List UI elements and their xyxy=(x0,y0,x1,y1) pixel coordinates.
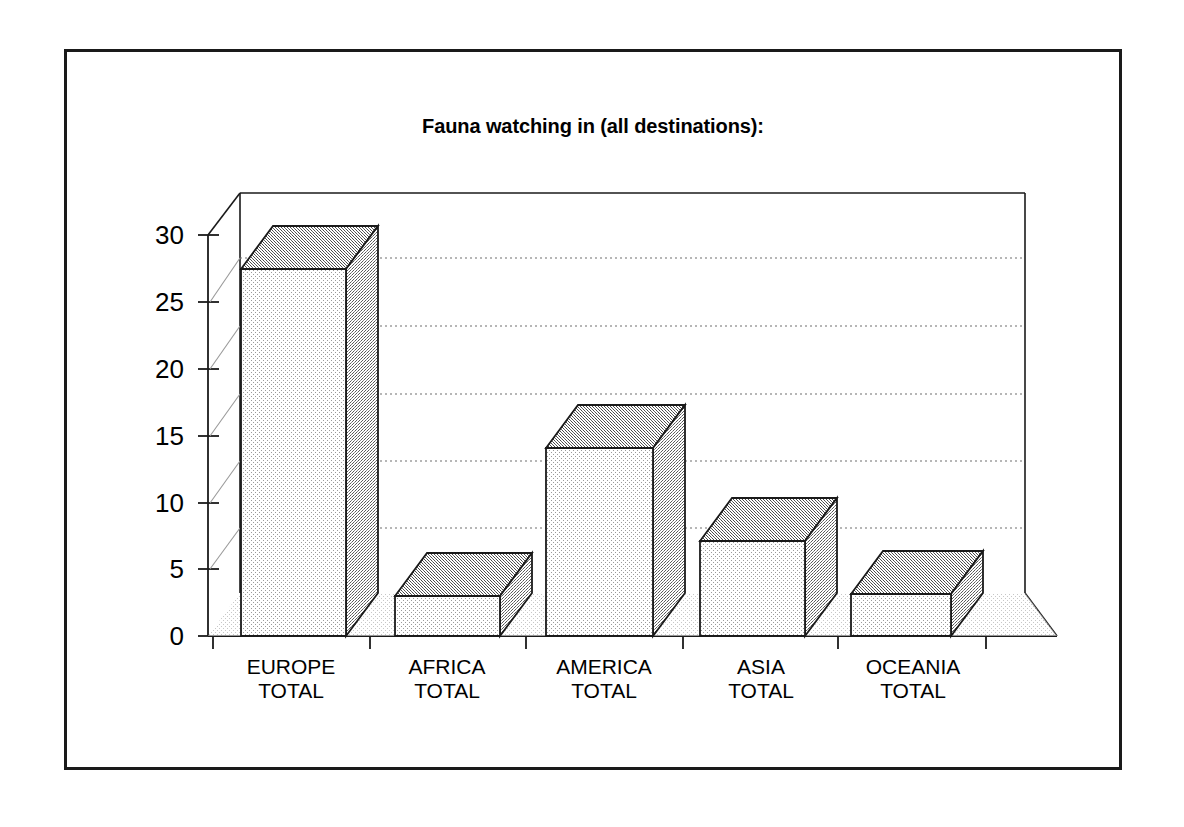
x-tick-label-america-total: AMERICA TOTAL xyxy=(519,655,689,702)
x-tick-label-europe-total: EUROPE TOTAL xyxy=(206,655,376,702)
x-tick-label-oceania-total: OCEANIA TOTAL xyxy=(828,655,998,702)
y-tick-label-20: 20 xyxy=(124,356,184,382)
y-axis xyxy=(198,235,219,636)
chart-frame: Fauna watching in (all destinations): xyxy=(64,49,1122,770)
y-tick-label-10: 10 xyxy=(124,490,184,516)
y-tick-label-5: 5 xyxy=(124,556,184,582)
plot-area: 30 25 20 15 10 5 0 EUROPE TOTAL AFRICA T… xyxy=(67,52,1125,773)
y-tick-label-0: 0 xyxy=(124,623,184,649)
y-axis-depth-leaders xyxy=(210,258,240,569)
y-tick-label-30: 30 xyxy=(124,222,184,248)
bar-asia-total[interactable] xyxy=(700,498,837,636)
x-tick-label-asia-total: ASIA TOTAL xyxy=(676,655,846,702)
x-tick-label-africa-total: AFRICA TOTAL xyxy=(362,655,532,702)
y-tick-label-25: 25 xyxy=(124,289,184,315)
y-tick-label-15: 15 xyxy=(124,423,184,449)
bar-america-total[interactable] xyxy=(546,405,685,636)
x-axis xyxy=(208,636,1057,649)
bar-europe-total[interactable] xyxy=(241,226,378,636)
chart-figure: Fauna watching in (all destinations): xyxy=(0,0,1184,827)
